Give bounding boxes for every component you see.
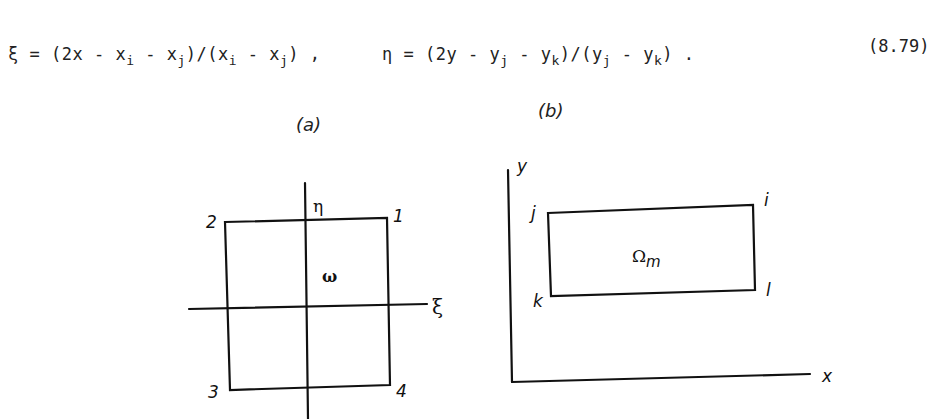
node-1: 1 [393, 206, 404, 226]
omega-label: ω [322, 267, 337, 286]
y-axis [508, 170, 512, 382]
omega-m-label: Ωm [632, 246, 661, 271]
xi-axis [189, 304, 427, 309]
eta-axis [305, 183, 308, 419]
node-j: j [529, 203, 536, 223]
node-k: k [533, 291, 544, 311]
node-l: l [766, 280, 771, 300]
figures: η ξ ω 1 2 3 4 y x Ωm i j k l [0, 0, 940, 419]
eta-axis-label: η [313, 196, 323, 216]
node-i: i [764, 190, 769, 210]
x-axis [512, 374, 810, 382]
x-axis-label: x [821, 366, 833, 386]
y-axis-label: y [516, 156, 528, 176]
node-4: 4 [396, 381, 407, 401]
node-3: 3 [208, 382, 219, 402]
element-rectangle [548, 205, 755, 296]
xi-axis-label: ξ [432, 295, 443, 319]
node-2: 2 [206, 212, 217, 232]
